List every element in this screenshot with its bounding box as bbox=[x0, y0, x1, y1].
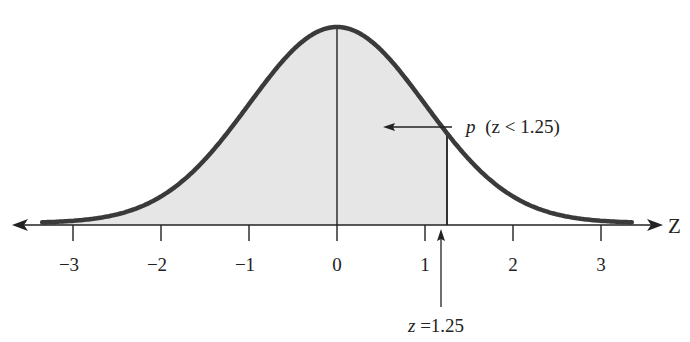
x-tick-label: 1 bbox=[420, 254, 430, 275]
x-axis-label: Z bbox=[668, 214, 681, 238]
x-tick-label: −2 bbox=[147, 254, 167, 275]
z-marker-value: =1.25 bbox=[420, 315, 464, 336]
z-marker-label: z =1.25 bbox=[407, 315, 464, 336]
x-tick-label: −1 bbox=[235, 254, 255, 275]
area-label: p (z < 1.25) bbox=[464, 116, 560, 138]
x-tick-label: 0 bbox=[332, 254, 342, 275]
x-tick-label: −3 bbox=[59, 254, 79, 275]
normal-distribution-chart: Z −3−2−10123 p (z < 1.25) z =1.25 bbox=[0, 0, 690, 342]
z-marker-var: z bbox=[407, 315, 416, 336]
x-tick-label: 2 bbox=[508, 254, 518, 275]
x-tick-label: 3 bbox=[596, 254, 606, 275]
x-axis-ticks: −3−2−10123 bbox=[59, 225, 606, 275]
area-label-p: p bbox=[464, 116, 476, 137]
area-label-condition: (z < 1.25) bbox=[485, 116, 560, 138]
